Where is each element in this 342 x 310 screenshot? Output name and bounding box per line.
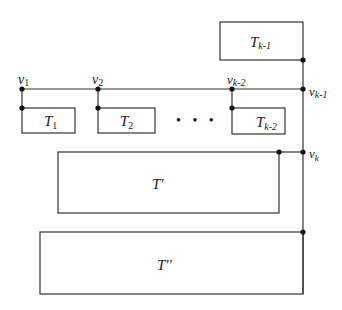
- subtree-box-tprime: [58, 152, 279, 213]
- label-t2: T2: [120, 113, 133, 131]
- node-vk: [300, 149, 305, 154]
- label-vk-1: vk-1: [309, 84, 328, 100]
- node-dot: [300, 57, 305, 62]
- node-dot: [19, 105, 24, 110]
- ellipsis: • • •: [176, 113, 218, 128]
- label-tk-2: Tk-2: [256, 114, 277, 132]
- node-dot: [300, 229, 305, 234]
- node-dot: [229, 105, 234, 110]
- node-dot: [276, 149, 281, 154]
- label-tk-1: Tk-1: [250, 34, 271, 51]
- node-dot: [95, 105, 100, 110]
- label-tdoubleprime: T'': [157, 257, 173, 273]
- label-vk: vk: [309, 146, 320, 163]
- label-vk-2: vk-2: [227, 72, 246, 88]
- label-v2: v2: [92, 72, 103, 88]
- node-vk-1: [300, 86, 305, 91]
- tree-diagram: v1 v2 vk-2 vk-1 vk Tk-1 T1 T2 Tk-2 T' T'…: [0, 0, 342, 310]
- label-v1: v1: [18, 72, 29, 88]
- label-tprime: T': [152, 176, 164, 192]
- label-t1: T1: [44, 113, 57, 131]
